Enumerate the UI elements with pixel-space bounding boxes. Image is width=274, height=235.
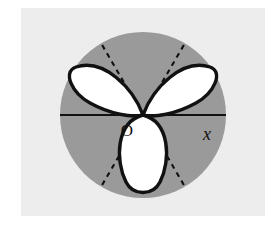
polar-rose-figure: O x <box>0 0 274 235</box>
x-axis-label: x <box>202 124 211 144</box>
origin-label: O <box>121 121 133 140</box>
figure-root: O x <box>0 0 274 235</box>
